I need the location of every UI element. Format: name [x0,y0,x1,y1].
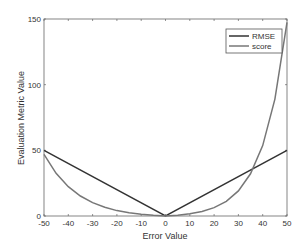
x-tick-label: 50 [283,219,292,228]
x-tick-label: 0 [163,219,168,228]
x-tick-label: 40 [258,219,267,228]
x-tick-label: -20 [111,219,123,228]
x-tick-label: -10 [135,219,147,228]
y-tick-label: 0 [37,212,42,221]
legend-score: score [252,42,272,51]
x-tick-label: -40 [63,219,75,228]
x-tick-label: 10 [185,219,194,228]
x-axis-label: Error Value [143,231,188,241]
y-tick-label: 50 [32,146,41,155]
y-tick-label: 100 [28,81,42,90]
x-tick-label: -30 [87,219,99,228]
legend-rmse: RMSE [252,32,275,41]
legend: RMSE score [226,29,282,53]
chart: -50-40-30-20-1001020304050050100150 Erro… [0,0,305,250]
x-tick-label: 30 [234,219,243,228]
x-tick-label: 20 [210,219,219,228]
y-axis-label: Evaluation Metric Value [16,71,26,165]
y-tick-label: 150 [28,15,42,24]
